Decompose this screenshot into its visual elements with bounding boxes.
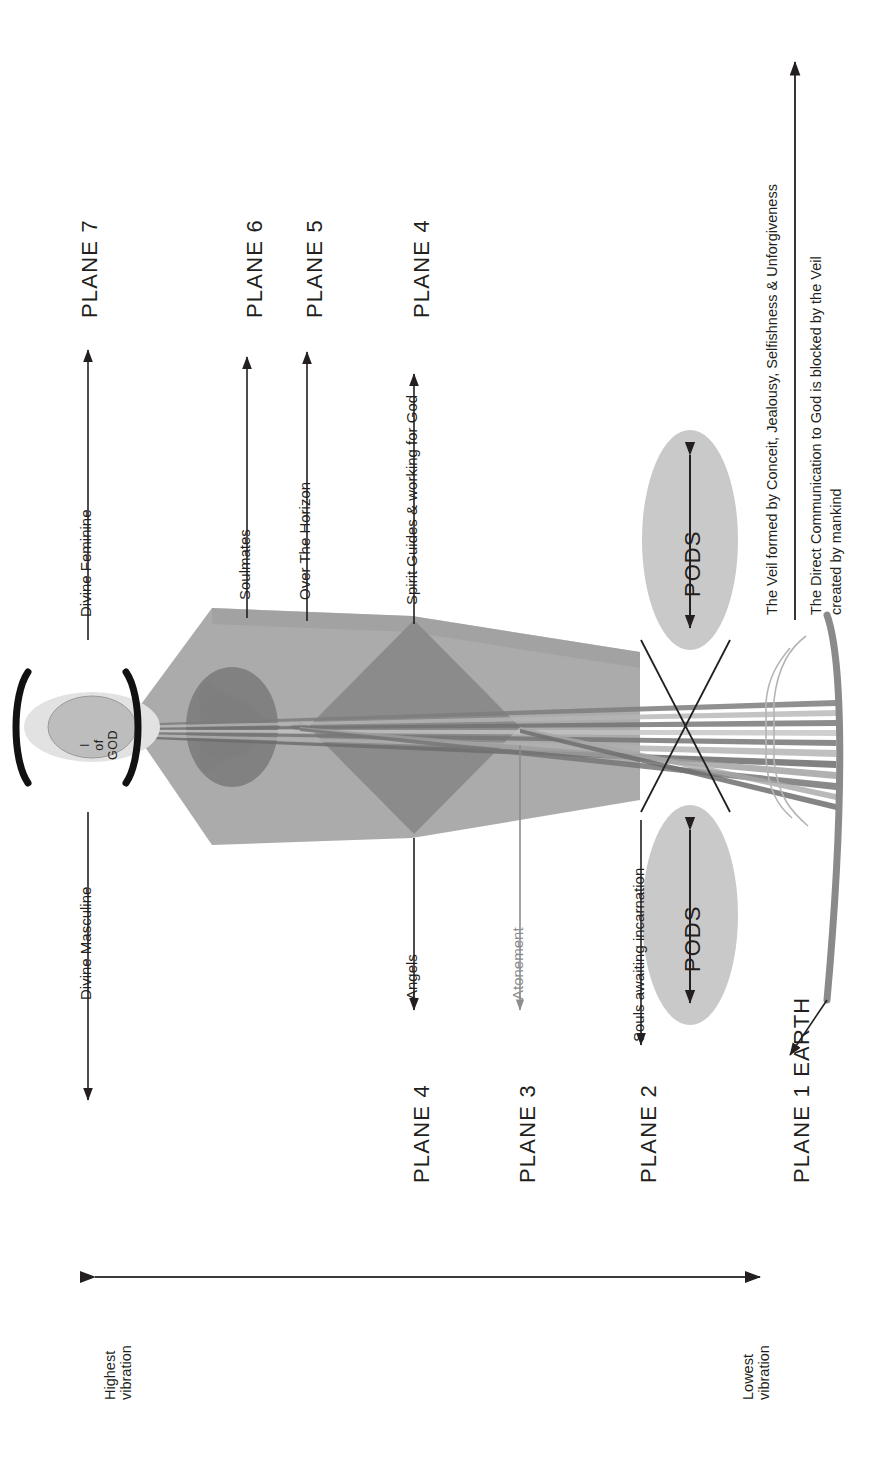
plane-label-2: PLANE 2 <box>637 1084 662 1183</box>
plane-label-4-lower: PLANE 4 <box>410 1084 435 1183</box>
god-core-label: I of GOD <box>78 730 120 760</box>
annotation-over-the-horizon: Over The Horizon <box>297 482 314 600</box>
lowest-vibration-line1: Lowest <box>740 1345 756 1400</box>
god-label-line1: I <box>78 730 92 760</box>
pods-label-upper: PODS <box>681 531 706 597</box>
highest-vibration-line2: vibration <box>118 1345 134 1400</box>
annotation-divine-feminine: Divine Feminine <box>78 509 95 617</box>
highest-vibration-line1: Highest <box>102 1345 118 1400</box>
annotation-angels: Angels <box>404 954 421 1000</box>
god-core <box>16 672 160 783</box>
god-label-line2: of <box>92 730 106 760</box>
plane-label-4-upper: PLANE 4 <box>410 219 435 318</box>
annotation-soulmates: Soulmates <box>237 529 254 600</box>
annotation-souls-awaiting: Souls awaiting incarnation <box>631 868 648 1042</box>
plane-label-1-earth: PLANE 1 EARTH <box>790 997 815 1183</box>
annotation-atonement: Atonement <box>510 927 527 1000</box>
lowest-vibration-label: Lowest vibration <box>740 1345 772 1400</box>
highest-vibration-label: Highest vibration <box>102 1345 134 1400</box>
annotation-spirit-guides: Spirit Guides & working for God <box>404 395 421 605</box>
diagram-graphics <box>0 0 871 1466</box>
pods-label-lower: PODS <box>681 906 706 972</box>
veil-note: The Veil formed by Conceit, Jealousy, Se… <box>764 184 780 615</box>
god-label-line3: GOD <box>106 730 120 760</box>
plane-label-5: PLANE 5 <box>303 219 328 318</box>
direct-communication-note-line2: created by mankind <box>828 488 844 615</box>
plane-label-3: PLANE 3 <box>516 1084 541 1183</box>
annotation-divine-masculine: Divine Masculine <box>78 887 95 1000</box>
diagram-canvas: I of GOD PLANE 7 PLANE 6 PLANE 5 PLANE 4… <box>0 0 871 1466</box>
direct-communication-note-line1: The Direct Communication to God is block… <box>808 256 824 615</box>
plane-label-7: PLANE 7 <box>78 219 103 318</box>
lowest-vibration-line2: vibration <box>756 1345 772 1400</box>
plane-label-6: PLANE 6 <box>243 219 268 318</box>
